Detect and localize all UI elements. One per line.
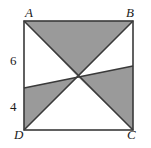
geometry-figure bbox=[0, 0, 151, 148]
segment-length-label-upper: 6 bbox=[10, 54, 17, 67]
vertex-label-b: B bbox=[126, 6, 134, 19]
segment-length-label-lower: 4 bbox=[10, 100, 17, 113]
vertex-label-d: D bbox=[14, 128, 23, 141]
vertex-label-c: C bbox=[127, 128, 136, 141]
vertex-label-a: A bbox=[25, 6, 33, 19]
